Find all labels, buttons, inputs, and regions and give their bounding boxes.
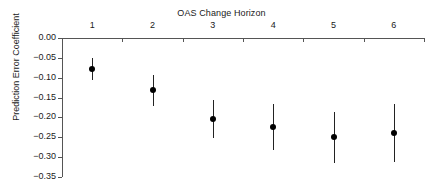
data-point (270, 124, 276, 130)
x-axis-tick-label: 2 (143, 20, 163, 30)
y-axis-tick-label: −0.35 (33, 171, 56, 181)
x-axis-tick-label: 5 (324, 20, 344, 30)
data-point (210, 116, 216, 122)
y-axis-tick-label: −0.15 (33, 92, 56, 102)
x-axis-tick-label: 3 (203, 20, 223, 30)
y-axis-tick-label: 0.00 (38, 32, 56, 42)
y-axis-tick-label: −0.10 (33, 72, 56, 82)
data-point (89, 66, 95, 72)
y-axis-tick-label: −0.05 (33, 52, 56, 62)
x-axis-tick (424, 38, 425, 42)
data-point (391, 130, 397, 136)
x-axis-tick-label: 1 (82, 20, 102, 30)
y-axis-tick-label: −0.25 (33, 131, 56, 141)
plot-area (62, 38, 424, 177)
chart-title: OAS Change Horizon (0, 8, 443, 18)
data-point (331, 134, 337, 140)
y-axis-tick-labels: 0.00−0.05−0.10−0.15−0.20−0.25−0.30−0.35 (0, 0, 56, 191)
x-axis-tick-label: 6 (384, 20, 404, 30)
chart-figure: OAS Change Horizon Prediction Error Coef… (0, 0, 443, 191)
y-axis-tick-label: −0.20 (33, 111, 56, 121)
y-axis-tick-label: −0.30 (33, 151, 56, 161)
x-axis-tick-label: 4 (263, 20, 283, 30)
y-axis-tick (58, 177, 62, 178)
data-point (150, 87, 156, 93)
